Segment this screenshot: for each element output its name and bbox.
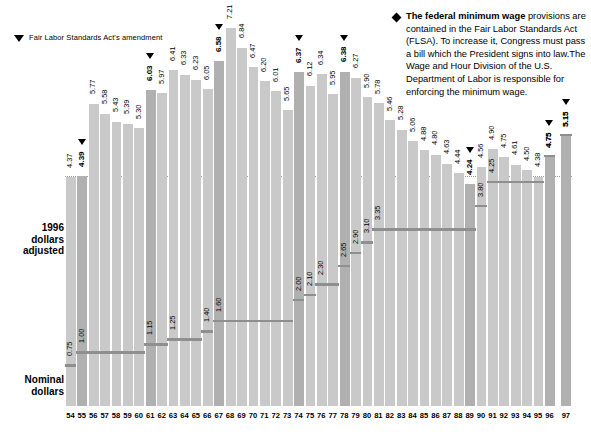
- x-tick-81: 81: [373, 408, 384, 426]
- real-dollar-bar: [145, 90, 156, 406]
- nominal-value-label-61: 1.15: [147, 321, 154, 335]
- bar-column-56: 5.77: [88, 8, 99, 406]
- real-value-label-66: 6.05: [204, 65, 211, 79]
- bar-column-88: 4.44: [453, 8, 464, 406]
- bar-column-97: 5.155.15: [560, 8, 571, 406]
- bar-column-89: 4.24: [464, 8, 475, 406]
- nominal-dollar-step: [418, 228, 430, 231]
- flsa-amendment-marker-74: [295, 35, 303, 41]
- real-dollar-bar: [88, 104, 99, 406]
- x-tick-68: 68: [225, 408, 236, 426]
- real-dollar-bar: [521, 170, 532, 406]
- real-value-label-60: 5.30: [135, 105, 142, 119]
- bar-column-81: 5.783.35: [373, 8, 384, 406]
- x-tick-78: 78: [339, 408, 350, 426]
- x-tick-88: 88: [453, 408, 464, 426]
- x-tick-60: 60: [133, 408, 144, 426]
- nominal-value-label-76: 2.30: [318, 261, 325, 275]
- x-tick-97: 97: [560, 408, 571, 426]
- nominal-dollar-step: [236, 320, 248, 323]
- flsa-amendment-marker-61: [146, 53, 154, 59]
- nominal-dollar-step: [521, 181, 533, 184]
- real-value-label-82: 5.46: [386, 96, 393, 110]
- real-value-label-68: 7.21: [226, 5, 233, 19]
- nominal-dollar-step: [65, 364, 77, 367]
- nominal-dollar-step: [247, 320, 259, 323]
- real-dollar-bar: [99, 114, 110, 406]
- nominal-dollar-step: [487, 181, 499, 184]
- real-dollar-bar: [282, 110, 293, 406]
- nominal-dollar-step: [372, 228, 384, 231]
- bar-column-94: 4.50: [521, 8, 532, 406]
- bar-column-62: 5.97: [156, 8, 167, 406]
- x-axis-tick-labels: 5455565758596061626364656667686970717273…: [65, 408, 572, 426]
- down-triangle-icon: [14, 35, 24, 42]
- real-dollar-bar: [236, 48, 247, 406]
- real-value-label-93: 4.61: [512, 141, 519, 155]
- real-value-label-69: 6.84: [238, 24, 245, 38]
- bar-column-96: 4.754.75: [544, 8, 555, 406]
- real-dollar-bar: [122, 124, 133, 406]
- bar-column-74: 6.372.00: [293, 8, 304, 406]
- nominal-dollar-step: [304, 294, 316, 297]
- nominal-dollar-step: [430, 228, 442, 231]
- real-value-label-83: 5.28: [397, 106, 404, 120]
- real-value-label-79: 6.27: [352, 54, 359, 68]
- x-tick-70: 70: [248, 408, 259, 426]
- real-dollar-bar: [133, 128, 144, 406]
- x-tick-76: 76: [316, 408, 327, 426]
- x-tick-54: 54: [65, 408, 76, 426]
- nominal-dollar-step: [475, 205, 487, 208]
- nominal-value-label-79: 2.90: [352, 229, 359, 243]
- real-value-label-64: 6.33: [181, 51, 188, 65]
- real-value-label-92: 4.75: [500, 133, 507, 147]
- bar-column-65: 6.23: [190, 8, 201, 406]
- real-dollar-bar: [327, 94, 338, 406]
- x-tick-86: 86: [430, 408, 441, 426]
- x-tick-75: 75: [305, 408, 316, 426]
- bar-column-93: 4.61: [510, 8, 521, 406]
- x-tick-64: 64: [179, 408, 190, 426]
- nominal-dollar-step: [167, 338, 179, 341]
- nominal-value-label-55: 1.00: [78, 329, 85, 343]
- x-tick-96: 96: [544, 408, 555, 426]
- real-dollar-bar: [430, 155, 441, 406]
- x-tick-84: 84: [407, 408, 418, 426]
- nominal-dollar-step: [201, 330, 213, 333]
- real-value-label-65: 6.23: [192, 56, 199, 70]
- x-tick-80: 80: [362, 408, 373, 426]
- nominal-value-label-67: 1.60: [215, 297, 222, 311]
- nominal-dollar-step: [384, 228, 396, 231]
- real-dollar-bar: [464, 184, 475, 406]
- nominal-dollar-step: [122, 351, 134, 354]
- bar-column-84: 5.06: [407, 8, 418, 406]
- x-tick-85: 85: [419, 408, 430, 426]
- real-dollar-bar: [213, 61, 224, 406]
- bar-group: 4.370.754.391.005.775.585.435.395.306.03…: [65, 8, 572, 406]
- real-value-label-56: 5.77: [90, 80, 97, 94]
- bar-column-71: 6.20: [259, 8, 270, 406]
- real-value-label-59: 5.39: [124, 100, 131, 114]
- nominal-dollar-step: [560, 134, 572, 137]
- axis-label-nominal-dollars: Nominal dollars: [0, 374, 64, 397]
- x-tick-66: 66: [202, 408, 213, 426]
- x-tick-73: 73: [282, 408, 293, 426]
- nominal-dollar-step: [293, 299, 305, 302]
- bar-column-73: 5.65: [282, 8, 293, 406]
- x-tick-65: 65: [190, 408, 201, 426]
- real-dollar-bar: [76, 176, 87, 406]
- nominal-dollar-step: [452, 228, 464, 231]
- real-value-label-85: 4.88: [420, 127, 427, 141]
- x-tick-92: 92: [498, 408, 509, 426]
- x-tick-95: 95: [533, 408, 544, 426]
- flsa-amendment-marker-97: [562, 99, 570, 105]
- bar-column-57: 5.58: [99, 8, 110, 406]
- real-value-label-71: 6.20: [261, 58, 268, 72]
- nominal-dollar-step: [327, 283, 339, 286]
- bar-column-87: 4.63: [441, 8, 452, 406]
- bar-column-67: 6.581.60: [213, 8, 224, 406]
- flsa-amendment-marker-55: [78, 139, 86, 145]
- nominal-dollar-step: [99, 351, 111, 354]
- nominal-dollar-step: [544, 155, 556, 158]
- x-tick-61: 61: [145, 408, 156, 426]
